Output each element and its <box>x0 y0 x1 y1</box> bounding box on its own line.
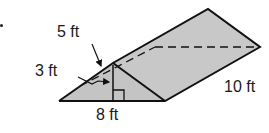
slant-pointer <box>92 44 101 66</box>
label-base: 8 ft <box>96 107 118 123</box>
triangular-prism-figure: 5 ft 3 ft 8 ft 10 ft <box>0 0 269 133</box>
label-slant: 5 ft <box>57 24 79 40</box>
label-length: 10 ft <box>224 79 255 95</box>
label-height: 3 ft <box>35 63 57 79</box>
